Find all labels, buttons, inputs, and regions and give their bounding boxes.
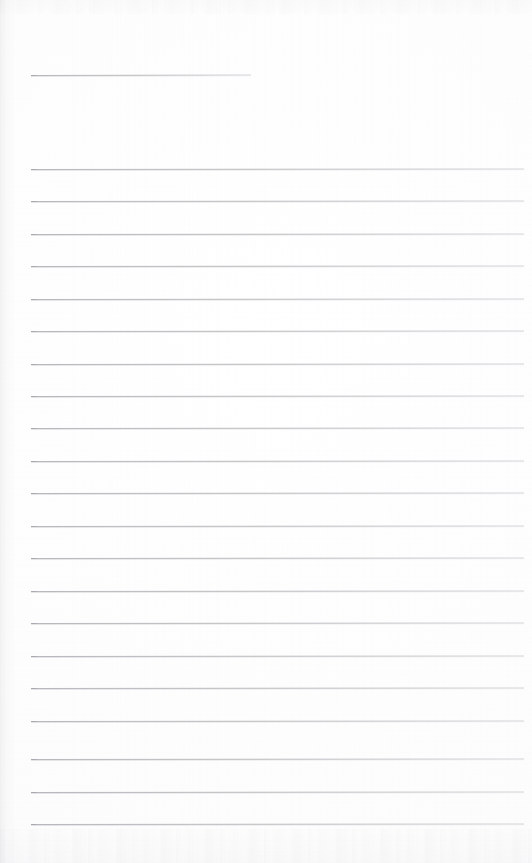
page-body-text <box>33 150 524 840</box>
page-title-text <box>33 57 251 73</box>
header-signature-rule <box>31 75 251 76</box>
scanned-page <box>0 0 532 863</box>
